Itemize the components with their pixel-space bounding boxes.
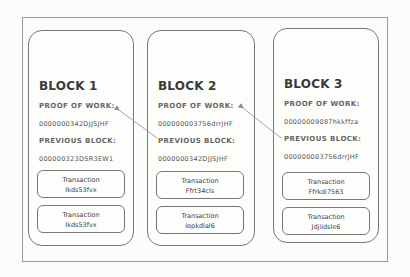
link-arrows xyxy=(0,0,410,277)
arrow-block3-to-block2 xyxy=(243,108,281,138)
arrow-block2-to-block1 xyxy=(119,110,157,138)
